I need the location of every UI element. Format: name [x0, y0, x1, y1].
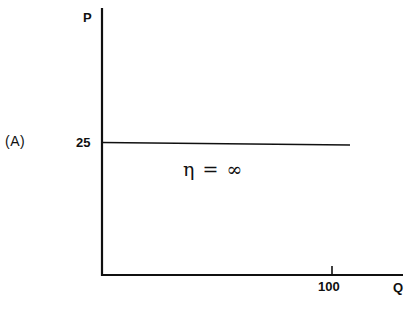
elasticity-annotation: η = ∞ [183, 160, 243, 179]
y-axis-label: P [83, 11, 92, 24]
figure-panel-a: (A) P Q 25 100 η = ∞ [0, 0, 408, 309]
y-tick-label-25: 25 [76, 136, 90, 149]
chart-canvas [0, 0, 408, 309]
x-tick-label-100: 100 [318, 280, 340, 293]
x-axis-label: Q [393, 281, 403, 294]
panel-label: (A) [5, 134, 25, 148]
demand-curve-line [102, 143, 350, 146]
